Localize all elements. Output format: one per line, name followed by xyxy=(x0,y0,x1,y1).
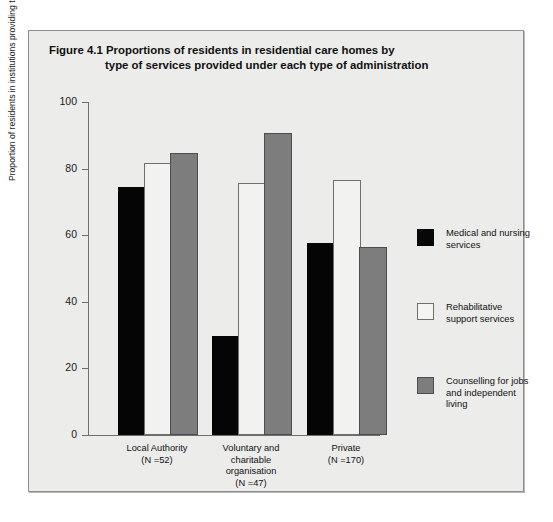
figure-panel: Figure 4.1 Proportions of residents in r… xyxy=(28,30,524,492)
legend-label-2: Rehabilitativesupport services xyxy=(446,301,547,324)
y-tick-label-60: 60 xyxy=(33,228,77,240)
chart-legend: Medical and nursingservicesRehabilitativ… xyxy=(417,227,547,450)
bar-g1-s1 xyxy=(118,187,146,435)
legend-label-line: Rehabilitative xyxy=(446,301,547,313)
legend-label-line: services xyxy=(446,239,547,251)
legend-label-line: Counselling for jobs xyxy=(446,375,547,387)
y-tick-label-100: 100 xyxy=(33,95,77,107)
x-axis-line xyxy=(88,435,380,436)
bar-g2-s1 xyxy=(212,336,240,435)
legend-label-line: living xyxy=(446,398,547,410)
bar-g1-s2 xyxy=(144,163,172,435)
bar-g3-s3 xyxy=(359,247,387,435)
legend-item-1[interactable]: Medical and nursingservices xyxy=(417,227,547,261)
legend-item-3[interactable]: Counselling for jobsand independentlivin… xyxy=(417,375,547,410)
figure-title-line1: Figure 4.1 Proportions of residents in r… xyxy=(43,43,509,58)
y-axis-title: Proportion of residents in institutions … xyxy=(7,0,17,181)
legend-swatch-grey xyxy=(417,377,434,394)
plot-area xyxy=(88,102,378,435)
bar-g1-s3 xyxy=(170,153,198,435)
y-tick-label-80: 80 xyxy=(33,162,77,174)
legend-label-line: Medical and nursing xyxy=(446,227,547,239)
x-group-label-line: (N =170) xyxy=(291,455,401,467)
x-group-label-line: (N =47) xyxy=(196,478,306,490)
x-group-label-3: Private(N =170) xyxy=(291,443,401,466)
bar-g3-s2 xyxy=(333,180,361,435)
bar-g2-s3 xyxy=(264,133,292,435)
legend-swatch-black xyxy=(417,229,434,246)
figure-title: Figure 4.1 Proportions of residents in r… xyxy=(43,43,509,73)
bar-g2-s2 xyxy=(238,183,266,435)
y-tick-label-40: 40 xyxy=(33,295,77,307)
bar-g3-s1 xyxy=(307,243,335,435)
legend-label-line: and independent xyxy=(446,387,547,399)
x-group-label-line: Voluntary and xyxy=(196,443,306,455)
y-tick-label-0: 0 xyxy=(33,428,77,440)
x-group-label-2: Voluntary andcharitableorganisation(N =4… xyxy=(196,443,306,489)
legend-label-line: support services xyxy=(446,313,547,325)
y-tick-0 xyxy=(82,435,88,436)
figure-page: Figure 4.1 Proportions of residents in r… xyxy=(0,0,553,522)
y-tick-label-20: 20 xyxy=(33,361,77,373)
legend-swatch-white xyxy=(417,303,434,320)
x-group-label-line: organisation xyxy=(196,466,306,478)
legend-label-1: Medical and nursingservices xyxy=(446,227,547,250)
x-group-label-line: charitable xyxy=(196,455,306,467)
legend-item-2[interactable]: Rehabilitativesupport services xyxy=(417,301,547,335)
x-group-label-line: Private xyxy=(291,443,401,455)
figure-title-line2: type of services provided under each typ… xyxy=(43,58,509,73)
legend-label-3: Counselling for jobsand independentlivin… xyxy=(446,375,547,410)
